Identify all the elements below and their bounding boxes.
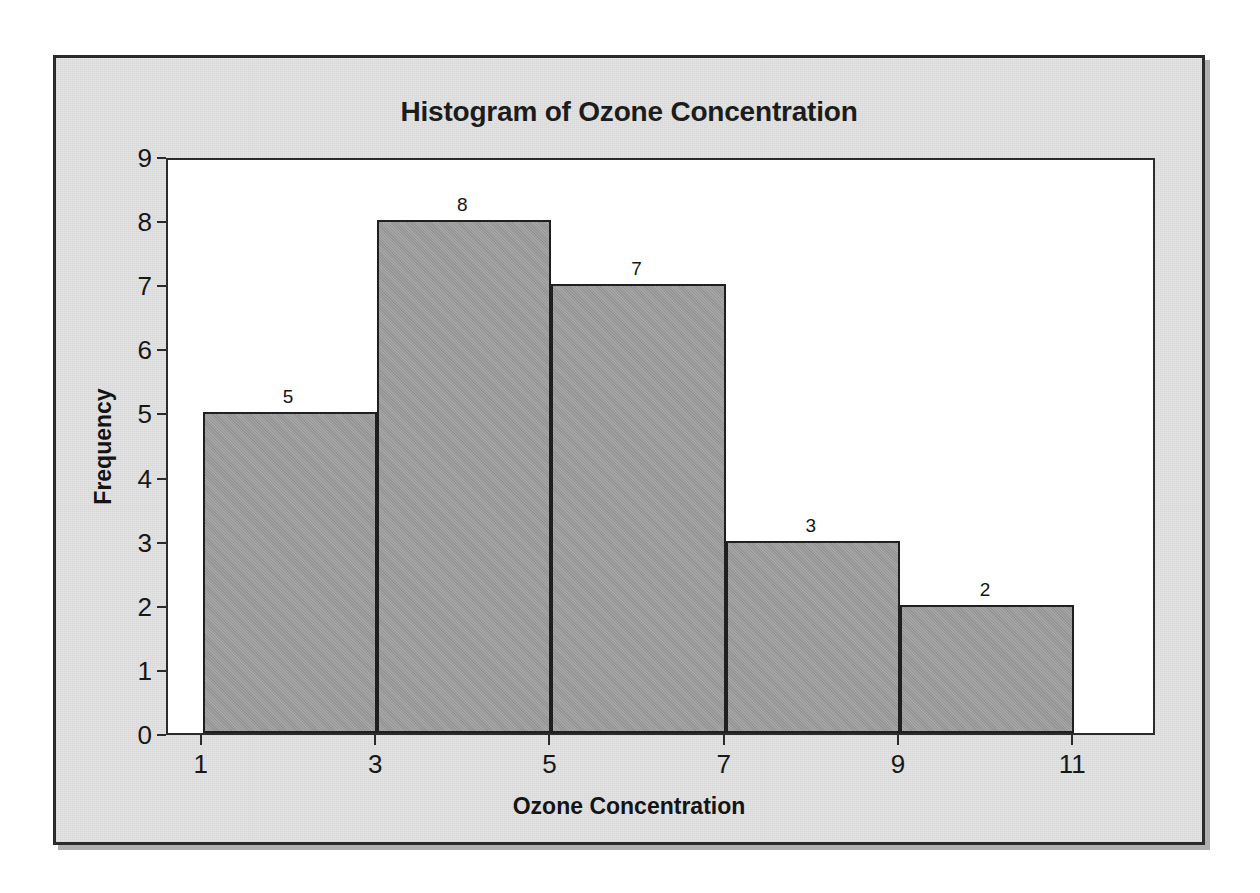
- x-tick-mark: [548, 735, 550, 745]
- y-tick-label: 5: [138, 399, 152, 430]
- x-tick-label: 5: [542, 749, 556, 780]
- histogram-bar: [377, 220, 551, 733]
- x-tick-mark: [374, 735, 376, 745]
- chart-frame: Histogram of Ozone Concentration Frequen…: [53, 55, 1205, 845]
- y-tick-label: 1: [138, 655, 152, 686]
- y-tick-label: 4: [138, 463, 152, 494]
- y-tick-mark: [157, 285, 166, 287]
- plot-area: [166, 158, 1155, 735]
- bar-value-label: 8: [457, 194, 468, 216]
- x-tick-label: 9: [891, 749, 905, 780]
- histogram-bar: [900, 605, 1074, 733]
- bars-layer: [168, 160, 1153, 733]
- y-tick-mark: [157, 542, 166, 544]
- bar-value-label: 3: [806, 515, 817, 537]
- bar-value-label: 7: [631, 258, 642, 280]
- y-tick-label: 9: [138, 143, 152, 174]
- y-tick-mark: [157, 734, 166, 736]
- x-tick-label: 3: [368, 749, 382, 780]
- y-tick-label: 6: [138, 335, 152, 366]
- x-tick-mark: [200, 735, 202, 745]
- x-tick-mark: [723, 735, 725, 745]
- y-tick-mark: [157, 221, 166, 223]
- x-tick-mark: [897, 735, 899, 745]
- x-tick-mark: [1071, 735, 1073, 745]
- chart-title: Histogram of Ozone Concentration: [56, 96, 1202, 128]
- x-tick-label: 11: [1059, 749, 1086, 780]
- y-tick-mark: [157, 670, 166, 672]
- y-axis-title: Frequency: [90, 158, 117, 735]
- y-tick-label: 2: [138, 591, 152, 622]
- y-tick-mark: [157, 157, 166, 159]
- histogram-bar: [726, 541, 900, 733]
- histogram-bar: [551, 284, 725, 733]
- y-tick-mark: [157, 606, 166, 608]
- bar-value-label: 2: [980, 579, 991, 601]
- y-tick-mark: [157, 478, 166, 480]
- x-tick-label: 7: [716, 749, 730, 780]
- y-tick-label: 3: [138, 527, 152, 558]
- y-tick-label: 7: [138, 271, 152, 302]
- bar-value-label: 5: [283, 386, 294, 408]
- x-axis-title: Ozone Concentration: [56, 793, 1202, 820]
- histogram-bar: [203, 412, 377, 733]
- y-tick-label: 0: [138, 720, 152, 751]
- y-tick-label: 8: [138, 207, 152, 238]
- x-tick-label: 1: [194, 749, 208, 780]
- y-tick-mark: [157, 413, 166, 415]
- y-tick-mark: [157, 349, 166, 351]
